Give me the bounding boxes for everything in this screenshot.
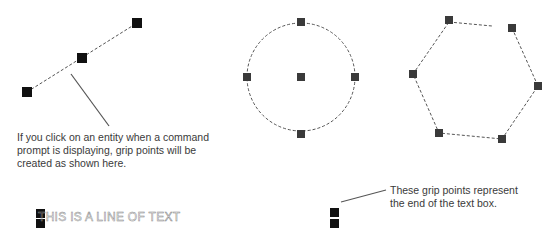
grip-point-icon[interactable]: [297, 130, 305, 138]
grip-point-icon[interactable]: [243, 73, 251, 81]
grip-point-icon[interactable]: [508, 24, 516, 32]
polygon-entity: [409, 16, 542, 143]
grip-point-icon[interactable]: [409, 70, 417, 78]
grip-point-icon[interactable]: [330, 219, 339, 228]
text-end-grips: [330, 190, 386, 228]
leader-line: [341, 190, 386, 202]
entity-grips-note: If you click on an entity when a command…: [17, 131, 209, 170]
grip-point-icon[interactable]: [445, 16, 453, 24]
grip-point-icon[interactable]: [498, 135, 506, 143]
grip-point-icon[interactable]: [297, 18, 305, 26]
grip-point-icon[interactable]: [534, 82, 542, 90]
grip-point-icon[interactable]: [22, 87, 32, 97]
circle-entity: [243, 18, 359, 138]
grip-point-icon[interactable]: [351, 73, 359, 81]
line-entity: [22, 18, 142, 97]
leader-line: [71, 74, 109, 126]
sample-text-entity[interactable]: THIS IS A LINE OF TEXT: [38, 210, 180, 224]
note-line: prompt is displaying, grip points will b…: [17, 144, 209, 157]
grip-point-icon[interactable]: [330, 208, 339, 217]
note-line: These grip points represent: [390, 184, 518, 197]
text-grips-note: These grip points represent the end of t…: [390, 184, 518, 210]
grip-point-icon[interactable]: [132, 18, 142, 28]
grip-point-icon[interactable]: [435, 129, 443, 137]
note-line: the end of the text box.: [390, 197, 518, 210]
grip-point-icon[interactable]: [297, 73, 305, 81]
note-line: created as shown here.: [17, 157, 209, 170]
grip-point-icon[interactable]: [77, 53, 87, 63]
dashed-polygon: [413, 22, 538, 139]
note-line: If you click on an entity when a command: [17, 131, 209, 144]
